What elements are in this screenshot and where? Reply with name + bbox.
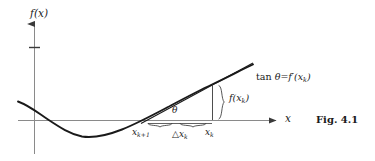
delta-x-label: △xk xyxy=(172,130,188,140)
angle-theta-label: θ xyxy=(172,106,177,115)
x-current-subscript: k xyxy=(210,131,214,138)
tangent-slope-annotation: tan θ=f′(xk) xyxy=(256,72,311,83)
derivative-open: f′( xyxy=(288,71,297,82)
delta-brace-right xyxy=(180,124,206,128)
figure-4-1: f(x) x tan θ=f′(xk) f(xk) θ xk+1 △xk xk … xyxy=(0,0,375,161)
function-value-label: f(xk) xyxy=(229,93,249,104)
function-value-brace xyxy=(219,86,224,120)
delta-brace-left xyxy=(148,124,172,128)
figure-caption: Fig. 4.1 xyxy=(316,115,358,125)
tan-keyword: tan xyxy=(256,71,272,82)
x-current-label: xk xyxy=(205,128,214,138)
x-axis-label: x xyxy=(285,113,291,124)
x-next-subscript: k+1 xyxy=(137,131,150,138)
delta-triangle-icon: △ xyxy=(172,129,179,139)
derivative-close: ) xyxy=(307,71,311,82)
function-value-close: ) xyxy=(246,92,250,103)
delta-subscript: k xyxy=(184,133,188,140)
x-next-label: xk+1 xyxy=(132,128,150,138)
y-axis-label: f(x) xyxy=(30,8,48,19)
